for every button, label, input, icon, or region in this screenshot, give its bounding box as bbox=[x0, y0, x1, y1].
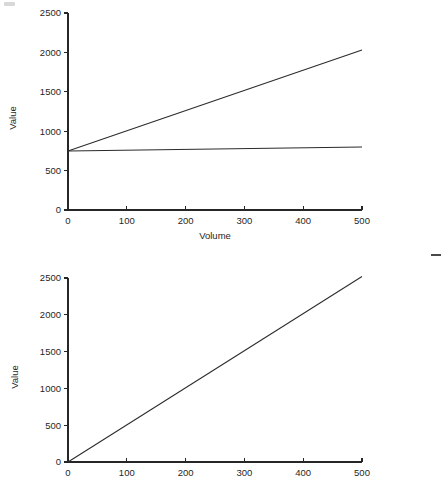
x-tick-label: 100 bbox=[119, 467, 135, 478]
y-tick-label: 500 bbox=[45, 165, 61, 176]
y-tick-label: 2000 bbox=[40, 47, 61, 58]
y-tick-label: 2500 bbox=[40, 272, 61, 283]
x-tick-label: 200 bbox=[178, 467, 194, 478]
x-tick-label: 400 bbox=[295, 215, 311, 226]
series-line-flat-line bbox=[68, 147, 362, 151]
chart-top: 050010001500200025000100200300400500Volu… bbox=[0, 0, 441, 250]
corner-smudge-artifact bbox=[4, 2, 15, 6]
x-tick-label: 300 bbox=[236, 215, 252, 226]
x-tick-label: 0 bbox=[65, 215, 70, 226]
x-tick-label: 500 bbox=[354, 467, 370, 478]
x-tick-label: 500 bbox=[354, 215, 370, 226]
series-line-rising-line bbox=[68, 277, 362, 462]
x-tick-label: 200 bbox=[178, 215, 194, 226]
y-axis-title: Value bbox=[9, 365, 20, 389]
y-axis-title: Value bbox=[7, 106, 18, 130]
x-tick-label: 300 bbox=[236, 467, 252, 478]
y-tick-label: 1000 bbox=[40, 383, 61, 394]
bottom-chart-plot-area: 050010001500200025000100200300400500Valu… bbox=[0, 250, 441, 482]
y-tick-label: 2000 bbox=[40, 309, 61, 320]
y-tick-label: 1500 bbox=[40, 346, 61, 357]
y-tick-label: 500 bbox=[45, 420, 61, 431]
x-tick-label: 0 bbox=[65, 467, 70, 478]
x-tick-label: 400 bbox=[295, 467, 311, 478]
top-chart-plot-area: 050010001500200025000100200300400500Volu… bbox=[0, 0, 441, 250]
y-tick-label: 0 bbox=[56, 204, 61, 215]
y-tick-label: 0 bbox=[56, 456, 61, 467]
x-tick-label: 100 bbox=[119, 215, 135, 226]
y-tick-label: 1000 bbox=[40, 126, 61, 137]
chart-bottom: 050010001500200025000100200300400500Valu… bbox=[0, 250, 441, 482]
x-axis-title: Volume bbox=[199, 230, 231, 241]
y-tick-label: 2500 bbox=[40, 7, 61, 18]
right-edge-dash-artifact bbox=[431, 254, 441, 256]
y-tick-label: 1500 bbox=[40, 86, 61, 97]
series-line-steep-line bbox=[68, 50, 362, 151]
